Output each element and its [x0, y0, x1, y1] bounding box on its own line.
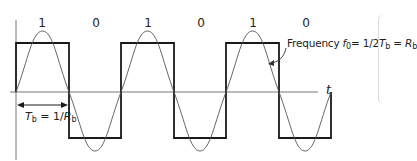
bit-label: 1 [144, 18, 152, 29]
bit-label: 0 [197, 18, 205, 29]
period-arrow [17, 102, 68, 108]
period-T: T [25, 110, 32, 123]
page-edge-shadow [378, 14, 387, 104]
bit-label: 1 [38, 18, 46, 29]
frequency-callout-arrow [268, 48, 286, 66]
period-label: Tb = 1/Rb [25, 111, 76, 125]
freq-prefix: Frequency [287, 37, 343, 49]
frequency-label: Frequency f0= 1/2Tb = Rb [287, 38, 417, 52]
time-axis-label: t [326, 84, 331, 95]
freq-R-sub: b [412, 42, 417, 51]
period-eq: = 1/ [37, 110, 64, 123]
freq-eq: = 1/2 [351, 37, 379, 49]
freq-eq2: = [390, 37, 405, 49]
bit-label: 0 [302, 18, 310, 29]
bit-label: 0 [92, 18, 100, 29]
period-R-sub: b [71, 115, 76, 124]
bit-label: 1 [249, 18, 257, 29]
